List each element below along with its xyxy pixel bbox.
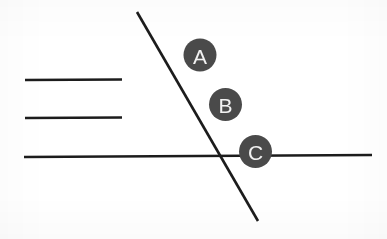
- diagram-background: [0, 0, 387, 239]
- marker-c-label: C: [248, 141, 263, 164]
- geometry-diagram: A B C: [0, 0, 387, 239]
- diagram-canvas: A B C: [0, 0, 387, 239]
- marker-a[interactable]: A: [184, 39, 217, 72]
- marker-a-label: A: [193, 45, 207, 68]
- lower-short-horizontal-line: [25, 118, 122, 119]
- marker-b[interactable]: B: [209, 88, 242, 121]
- marker-c[interactable]: C: [239, 135, 272, 168]
- marker-b-label: B: [218, 94, 232, 117]
- upper-short-horizontal-line: [25, 80, 122, 81]
